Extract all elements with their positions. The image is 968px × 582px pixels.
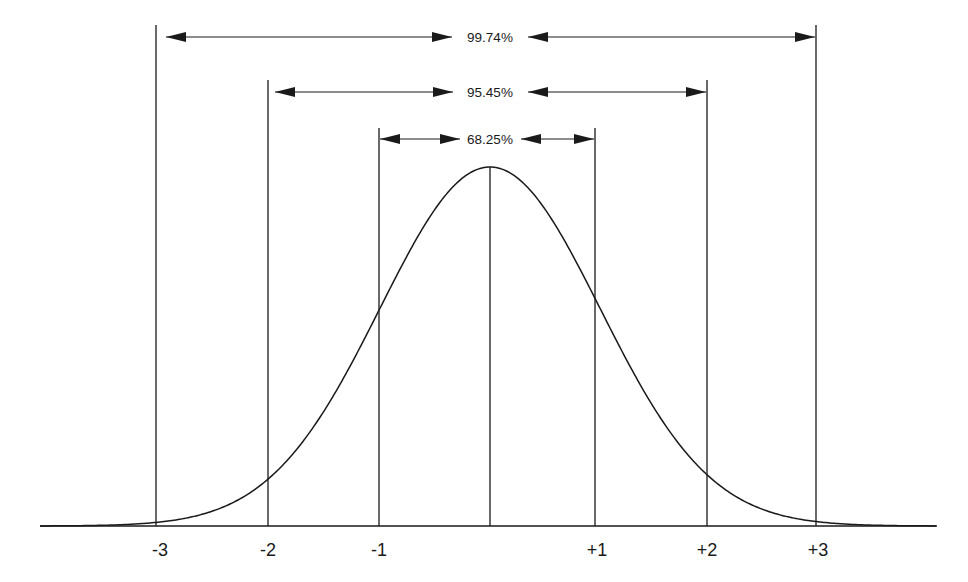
bracket-1sd: 68.25% xyxy=(380,132,594,147)
bracket-3sd: 99.74% xyxy=(166,30,815,45)
bracket-1sd-label: 68.25% xyxy=(467,132,513,147)
bell-curve xyxy=(40,167,936,526)
tick-label-minus2: -2 xyxy=(260,540,276,560)
bracket-3sd-label: 99.74% xyxy=(467,30,513,45)
tick-label-plus2: +2 xyxy=(697,540,718,560)
bracket-2sd: 95.45% xyxy=(275,85,706,100)
tick-label-plus3: +3 xyxy=(808,540,829,560)
tick-label-minus3: -3 xyxy=(152,540,168,560)
tick-label-minus1: -1 xyxy=(371,540,387,560)
chart-canvas: 99.74% 95.45% 68.25% -3 -2 -1 +1 +2 +3 xyxy=(0,0,968,582)
bracket-2sd-label: 95.45% xyxy=(467,85,513,100)
tick-label-plus1: +1 xyxy=(587,540,608,560)
normal-distribution-figure: 99.74% 95.45% 68.25% -3 -2 -1 +1 +2 +3 xyxy=(0,0,968,582)
